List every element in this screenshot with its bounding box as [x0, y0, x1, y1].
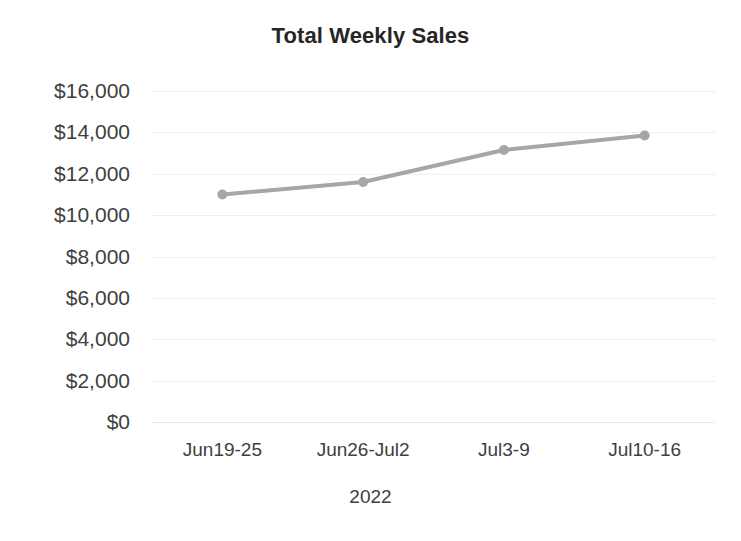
series-line	[222, 135, 644, 194]
data-point-marker	[358, 177, 368, 187]
y-axis-tick-label: $16,000	[0, 80, 130, 101]
gridline	[152, 422, 715, 423]
data-point-marker	[640, 130, 650, 140]
x-axis-tick-label: Jul3-9	[478, 440, 530, 459]
y-axis-tick-label: $8,000	[0, 246, 130, 267]
x-axis-tick-label: Jun19-25	[183, 440, 262, 459]
chart-container: Total Weekly Sales $0$2,000$4,000$6,000$…	[0, 0, 741, 541]
data-point-marker	[217, 189, 227, 199]
x-axis-tick-label: Jun26-Jul2	[317, 440, 410, 459]
y-axis-tick-label: $10,000	[0, 204, 130, 225]
y-axis-tick-label: $12,000	[0, 163, 130, 184]
x-axis-title: 2022	[0, 486, 741, 508]
series-line-group	[152, 91, 715, 422]
data-point-marker	[499, 145, 509, 155]
y-axis-tick-label: $14,000	[0, 121, 130, 142]
y-axis-tick-label: $0	[0, 411, 130, 432]
x-axis-tick-label: Jul10-16	[608, 440, 681, 459]
y-axis-tick-label: $6,000	[0, 287, 130, 308]
y-axis-tick-label: $2,000	[0, 370, 130, 391]
y-axis-tick-label: $4,000	[0, 328, 130, 349]
plot-area	[152, 91, 715, 422]
chart-title: Total Weekly Sales	[0, 23, 741, 49]
